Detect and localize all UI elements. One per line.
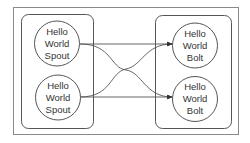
- node-label-line: Spout: [45, 50, 70, 61]
- node-label-line: World: [183, 93, 208, 104]
- node-label-line: Bolt: [187, 105, 204, 116]
- svg-text:Bolt: Bolt: [187, 105, 204, 116]
- node-label-line: World: [46, 92, 71, 103]
- node-bolt-1: Hello World Bolt: [173, 23, 218, 68]
- svg-text:Hello: Hello: [184, 81, 206, 92]
- node-spout-2: Hello World Spout: [36, 75, 81, 120]
- topology-diagram: Hello World Spout Hello World Spout Hell…: [0, 0, 250, 143]
- node-label-line: Spout: [46, 104, 71, 115]
- svg-text:World: World: [183, 40, 208, 51]
- svg-text:Hello: Hello: [184, 28, 206, 39]
- node-label-line: Hello: [184, 81, 206, 92]
- svg-text:World: World: [46, 92, 71, 103]
- node-label-line: Hello: [46, 26, 68, 37]
- node-label-line: Hello: [47, 80, 69, 91]
- node-label-line: World: [45, 38, 70, 49]
- svg-text:Bolt: Bolt: [187, 52, 204, 63]
- node-label-line: Bolt: [187, 52, 204, 63]
- svg-text:Spout: Spout: [46, 104, 71, 115]
- node-label-line: World: [183, 40, 208, 51]
- node-spout-1: Hello World Spout: [35, 21, 80, 66]
- svg-text:World: World: [45, 38, 70, 49]
- svg-text:World: World: [183, 93, 208, 104]
- svg-text:Hello: Hello: [46, 26, 68, 37]
- node-label-line: Hello: [184, 28, 206, 39]
- svg-text:Spout: Spout: [45, 50, 70, 61]
- node-bolt-2: Hello World Bolt: [173, 77, 218, 122]
- svg-text:Hello: Hello: [47, 80, 69, 91]
